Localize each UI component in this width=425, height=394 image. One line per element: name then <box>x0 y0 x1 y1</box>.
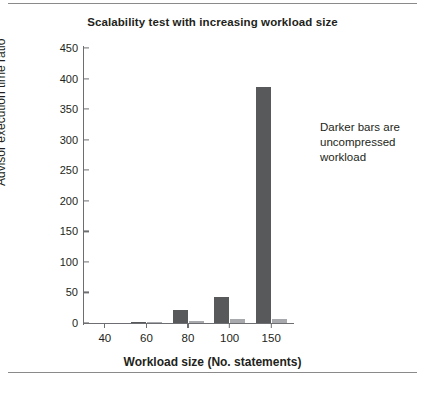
y-axis-tick: 450 <box>60 42 84 54</box>
y-axis-tick-mark <box>84 47 89 48</box>
y-axis-tick-label: 300 <box>60 134 84 146</box>
y-axis-tick: 250 <box>60 164 84 176</box>
x-axis-tick: 150 <box>262 323 281 344</box>
y-axis-tick-mark <box>84 292 89 293</box>
y-axis-tick-mark <box>84 261 89 262</box>
chart-title: Scalability test with increasing workloa… <box>0 16 425 28</box>
x-axis-tick: 40 <box>98 323 111 344</box>
y-axis-tick-label: 450 <box>60 42 84 54</box>
x-axis-tick-mark <box>229 323 230 328</box>
bar <box>214 297 229 323</box>
y-axis-tick: 400 <box>60 73 84 85</box>
annotation-line: Darker bars are <box>320 120 420 135</box>
bar <box>230 319 245 323</box>
y-axis-tick-label: 350 <box>60 103 84 115</box>
x-axis-tick-mark <box>187 323 188 328</box>
bar <box>272 319 287 323</box>
x-axis-tick-mark <box>146 323 147 328</box>
bar <box>173 310 188 323</box>
y-axis-tick-mark <box>84 231 89 232</box>
y-axis-tick-label: 250 <box>60 164 84 176</box>
y-axis-tick-label: 400 <box>60 73 84 85</box>
y-axis-tick-mark <box>84 322 89 323</box>
annotation-line: uncompressed <box>320 135 420 150</box>
figure-bottom-rule <box>8 372 417 373</box>
bar <box>131 322 146 323</box>
bar <box>189 321 204 323</box>
bar <box>147 322 162 323</box>
x-axis-label: Workload size (No. statements) <box>0 355 425 369</box>
x-axis-tick-mark <box>271 323 272 328</box>
x-axis-tick: 80 <box>182 323 195 344</box>
y-axis-tick-mark <box>84 139 89 140</box>
chart-annotation: Darker bars areuncompressedworkload <box>320 120 420 165</box>
y-axis-tick-label: 50 <box>66 286 84 298</box>
y-axis-tick: 100 <box>60 256 84 268</box>
y-axis-tick-label: 150 <box>60 225 84 237</box>
y-axis-tick-mark <box>84 78 89 79</box>
plot-area: 050100150200250300350400450406080100150 <box>84 48 292 323</box>
x-axis-tick: 100 <box>220 323 239 344</box>
y-axis-tick: 150 <box>60 225 84 237</box>
y-axis-tick: 50 <box>66 286 84 298</box>
y-axis-tick: 300 <box>60 134 84 146</box>
y-axis-tick-label: 100 <box>60 256 84 268</box>
y-axis-tick-label: 200 <box>60 195 84 207</box>
y-axis-tick: 200 <box>60 195 84 207</box>
figure-top-rule <box>8 3 417 4</box>
bar <box>256 87 271 323</box>
y-axis-tick: 0 <box>72 317 84 329</box>
x-axis-tick-mark <box>104 323 105 328</box>
y-axis-label: Advisor execution time ratio <box>0 39 8 186</box>
y-axis-tick-mark <box>84 170 89 171</box>
y-axis-tick: 350 <box>60 103 84 115</box>
y-axis-tick-label: 0 <box>72 317 84 329</box>
annotation-line: workload <box>320 150 420 165</box>
y-axis-tick-mark <box>84 109 89 110</box>
y-axis-tick-mark <box>84 200 89 201</box>
figure-container: Scalability test with increasing workloa… <box>0 0 425 394</box>
x-axis-tick: 60 <box>140 323 153 344</box>
